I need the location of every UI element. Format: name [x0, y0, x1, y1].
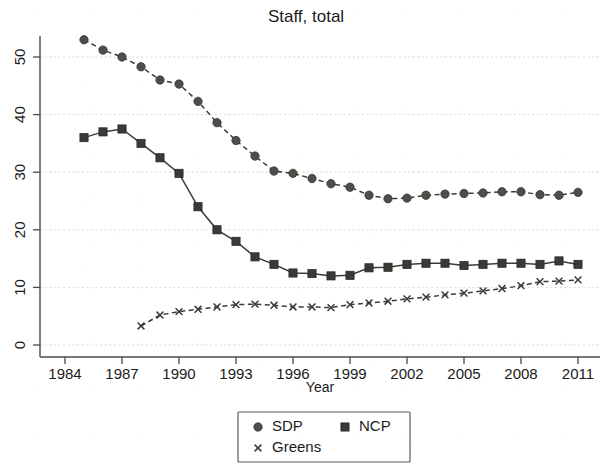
data-point-sdp-1986	[99, 46, 107, 54]
data-point-sdp-1994	[251, 152, 259, 160]
data-point-sdp-2003	[422, 191, 430, 199]
data-point-ncp-2004	[441, 259, 449, 267]
data-point-sdp-2005	[460, 189, 468, 197]
data-point-sdp-2009	[536, 190, 544, 198]
data-point-sdp-1997	[308, 174, 316, 182]
x-axis-label: Year	[306, 379, 335, 395]
data-point-ncp-2007	[498, 259, 506, 267]
chart-background	[0, 0, 612, 471]
data-point-ncp-2000	[365, 264, 373, 272]
data-point-sdp-2008	[517, 188, 525, 196]
data-point-sdp-2002	[403, 194, 411, 202]
data-point-sdp-2010	[555, 191, 563, 199]
data-point-ncp-2003	[422, 259, 430, 267]
data-point-ncp-1994	[251, 253, 259, 261]
data-point-ncp-2008	[517, 259, 525, 267]
y-tick-label-10: 10	[11, 279, 28, 296]
y-tick-label-20: 20	[11, 221, 28, 238]
data-point-ncp-1995	[270, 260, 278, 268]
legend-marker-circle	[254, 423, 262, 431]
data-point-ncp-1991	[194, 203, 202, 211]
data-point-sdp-1996	[289, 169, 297, 177]
legend-label-ncp: NCP	[359, 417, 391, 434]
data-point-ncp-2010	[555, 257, 563, 265]
x-tick-label-1993: 1993	[219, 365, 252, 382]
data-point-sdp-1998	[327, 180, 335, 188]
data-point-sdp-1995	[270, 167, 278, 175]
x-tick-label-2002: 2002	[390, 365, 423, 382]
data-point-ncp-1990	[175, 169, 183, 177]
data-point-sdp-2000	[365, 191, 373, 199]
data-point-ncp-2001	[384, 263, 392, 271]
data-point-sdp-2001	[384, 194, 392, 202]
data-point-ncp-1998	[327, 272, 335, 280]
data-point-ncp-2009	[536, 260, 544, 268]
data-point-sdp-1987	[118, 53, 126, 61]
data-point-ncp-1989	[156, 154, 164, 162]
data-point-ncp-2005	[460, 261, 468, 269]
data-point-sdp-1991	[194, 97, 202, 105]
data-point-sdp-1993	[232, 136, 240, 144]
x-tick-label-1990: 1990	[162, 365, 195, 382]
data-point-ncp-1992	[213, 226, 221, 234]
data-point-ncp-1997	[308, 269, 316, 277]
data-point-ncp-1985	[80, 134, 88, 142]
data-point-sdp-1989	[156, 76, 164, 84]
y-tick-label-30: 30	[11, 164, 28, 181]
data-point-sdp-2006	[479, 189, 487, 197]
data-point-ncp-1999	[346, 271, 354, 279]
data-point-ncp-1996	[289, 269, 297, 277]
x-tick-label-1984: 1984	[48, 365, 81, 382]
data-point-sdp-1990	[175, 80, 183, 88]
data-point-sdp-1985	[80, 36, 88, 44]
data-point-ncp-1986	[99, 128, 107, 136]
x-tick-label-2011: 2011	[562, 365, 594, 382]
legend-label-greens: Greens	[272, 438, 321, 455]
data-point-ncp-2011	[574, 260, 582, 268]
chart-figure: Staff, total 01020304050 198419871990199…	[0, 0, 612, 471]
chart-title: Staff, total	[268, 7, 344, 26]
y-tick-label-50: 50	[11, 49, 28, 66]
x-tick-label-1987: 1987	[105, 365, 138, 382]
data-point-ncp-1993	[232, 237, 240, 245]
data-point-sdp-1992	[213, 118, 221, 126]
y-tick-label-40: 40	[11, 106, 28, 123]
legend-label-sdp: SDP	[272, 417, 303, 434]
data-point-ncp-1988	[137, 139, 145, 147]
data-point-sdp-2004	[441, 190, 449, 198]
legend-marker-square	[341, 423, 349, 431]
data-point-ncp-2002	[403, 260, 411, 268]
data-point-sdp-2007	[498, 188, 506, 196]
x-tick-label-1996: 1996	[276, 365, 309, 382]
x-tick-label-2008: 2008	[504, 365, 537, 382]
y-tick-label-0: 0	[11, 341, 28, 349]
staff-total-line-chart: Staff, total 01020304050 198419871990199…	[0, 0, 612, 471]
data-point-ncp-1987	[118, 125, 126, 133]
data-point-sdp-1999	[346, 183, 354, 191]
x-tick-label-2005: 2005	[447, 365, 480, 382]
x-tick-label-1999: 1999	[333, 365, 366, 382]
chart-legend: SDPNCPGreens	[238, 412, 410, 462]
data-point-ncp-2006	[479, 260, 487, 268]
data-point-sdp-1988	[137, 63, 145, 71]
data-point-sdp-2011	[574, 188, 582, 196]
